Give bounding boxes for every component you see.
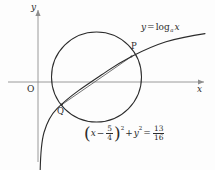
math-figure: y x O P Q y = log a x ( x − 5 4 ) 2 + y …	[0, 0, 215, 170]
y-axis-arrowhead	[35, 10, 40, 16]
chord-segment	[62, 57, 132, 105]
circle-eq-radius-fraction: 13 16	[153, 125, 165, 142]
origin-label: O	[27, 85, 34, 94]
circle-eq-equals: =	[143, 129, 151, 138]
circle-eq-y-power: 2	[139, 126, 143, 132]
circle-eq-center-den: 4	[106, 133, 113, 142]
x-axis-label: x	[197, 85, 202, 94]
circle-shape	[52, 32, 142, 122]
y-axis-label: y	[31, 3, 36, 12]
curve-eq-argument: x	[174, 23, 179, 32]
curve-eq-base: a	[170, 28, 173, 34]
curve-eq-equals: =	[147, 23, 155, 32]
point-label-p: P	[131, 42, 137, 51]
point-label-q: Q	[57, 107, 64, 116]
circle-eq-power: 2	[121, 126, 125, 132]
point-p-marker	[131, 56, 133, 58]
circle-eq-x: x	[91, 129, 96, 138]
log-curve	[40, 34, 205, 170]
circle-eq-radius-num: 13	[153, 125, 165, 133]
circle-eq-center-num: 5	[106, 125, 113, 133]
curve-eq-y: y	[141, 23, 146, 32]
circle-eq-minus: −	[97, 129, 105, 138]
curve-eq-log: log	[156, 23, 170, 32]
circle-eq-center-fraction: 5 4	[106, 125, 113, 142]
circle-equation-label: ( x − 5 4 ) 2 + y 2 = 13 16	[84, 125, 165, 142]
circle-eq-plus: +	[125, 129, 133, 138]
circle-eq-radius-den: 16	[153, 133, 165, 142]
curve-equation-label: y = log a x	[141, 23, 180, 32]
